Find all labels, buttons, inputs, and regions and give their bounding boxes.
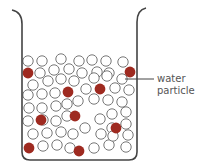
solute-particle	[36, 115, 47, 126]
water-particle	[56, 74, 66, 84]
water-particle	[62, 99, 72, 109]
water-particle	[117, 97, 127, 107]
water-particle	[121, 119, 131, 129]
water-particle	[89, 73, 99, 83]
water-particle	[52, 140, 62, 150]
water-particle	[24, 103, 34, 113]
particles-group	[23, 54, 136, 157]
water-particle	[37, 89, 47, 99]
water-particle	[96, 129, 106, 139]
water-particle	[121, 107, 131, 117]
water-particle	[49, 65, 59, 75]
water-particle	[118, 57, 128, 67]
water-particle	[80, 123, 90, 133]
water-particle	[37, 103, 47, 113]
water-particle	[89, 94, 99, 104]
water-particle	[28, 80, 38, 90]
water-particle	[124, 85, 134, 95]
water-particle	[50, 88, 60, 98]
water-particle	[56, 54, 66, 64]
water-particle	[89, 143, 99, 153]
water-particle	[68, 129, 78, 139]
water-particle	[74, 56, 84, 66]
beaker-diagram: water particle	[0, 0, 201, 166]
water-particle	[23, 116, 33, 126]
water-particle	[28, 129, 38, 139]
water-particle	[51, 101, 61, 111]
water-particle	[38, 141, 48, 151]
solute-particle	[23, 68, 34, 79]
solute-particle	[63, 87, 74, 98]
solute-particle	[95, 84, 106, 95]
water-particle	[35, 68, 45, 78]
solute-particle	[111, 123, 122, 134]
water-particle	[121, 142, 131, 152]
water-particle	[56, 127, 66, 137]
water-particle	[101, 56, 111, 66]
water-particle	[23, 90, 33, 100]
label-particle: particle	[157, 85, 195, 97]
solute-particle	[74, 146, 85, 157]
water-particle	[69, 76, 79, 86]
water-particle	[81, 84, 91, 94]
solute-particle	[70, 111, 81, 122]
water-particle	[64, 64, 74, 74]
water-particle	[103, 95, 113, 105]
water-particle	[107, 109, 117, 119]
water-particle	[23, 56, 33, 66]
solute-particle	[24, 143, 35, 154]
water-particle	[87, 55, 97, 65]
water-particle	[73, 96, 83, 106]
water-particle	[110, 83, 120, 93]
water-particle	[43, 76, 53, 86]
water-particle	[95, 114, 105, 124]
water-particle	[77, 68, 87, 78]
label-water: water	[157, 73, 186, 85]
solute-particle	[125, 67, 136, 78]
water-particle	[102, 71, 112, 81]
water-particle	[123, 130, 133, 140]
water-particle	[51, 116, 61, 126]
water-particle	[42, 128, 52, 138]
water-particle	[37, 56, 47, 66]
